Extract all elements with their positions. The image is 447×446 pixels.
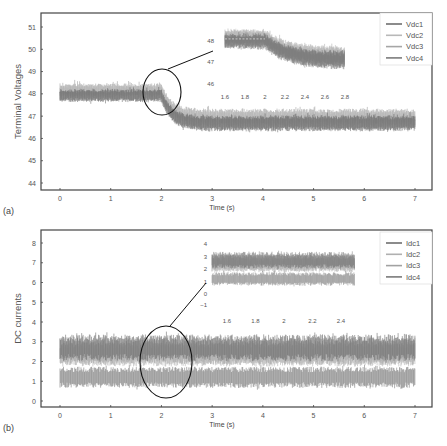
- figure: 012345674445464748495051Time (s)Terminal…: [0, 0, 447, 446]
- panel-a-y-tick-label: 51: [28, 24, 36, 31]
- legend-label: Vdc4: [406, 54, 423, 63]
- panel-a-leader-line: [168, 51, 213, 69]
- panel-b-panel-label: (b): [3, 423, 14, 433]
- legend-label: Idc2: [406, 250, 420, 259]
- panel-b-x-tick-label: 5: [312, 412, 316, 419]
- panel-a-x-tick-label: 4: [261, 195, 265, 202]
- panel-b-y-tick-label: 1: [32, 378, 36, 385]
- panel-b-x-tick-label: 0: [58, 412, 62, 419]
- inset-b-x-tick-label: 2.2: [308, 318, 317, 324]
- panel-a-x-tick-label: 1: [109, 195, 113, 202]
- panel-a-x-tick-label: 2: [159, 195, 163, 202]
- panel-a-x-tick-label: 0: [58, 195, 62, 202]
- panel-b-y-tick-label: 3: [32, 338, 36, 345]
- inset-a-x-tick-label: 2.2: [281, 94, 290, 100]
- inset-a-x-tick-label: 2.4: [301, 94, 310, 100]
- inset-a-y-tick-label: 48: [207, 38, 214, 44]
- panel-a-y-tick-label: 46: [28, 135, 36, 142]
- legend-label: Vdc3: [406, 42, 423, 51]
- panel-b-x-tick-label: 7: [413, 412, 417, 419]
- inset-b-y-tick-label: 0: [204, 291, 208, 297]
- panel-a-x-axis-label: Time (s): [209, 204, 234, 212]
- inset-a-x-tick-label: 2.6: [321, 94, 330, 100]
- panel-b-zoom-inset: −1012341.61.822.22.4: [200, 241, 354, 324]
- panel-b-y-tick-label: 5: [32, 299, 36, 306]
- inset-a-y-tick-label: 47: [207, 59, 214, 65]
- inset-b-x-tick-label: 1.8: [251, 318, 260, 324]
- panel-b-dc-currents: 01234567012345678Time (s)DC currents(b)−…: [3, 230, 432, 433]
- panel-a-y-tick-label: 49: [28, 68, 36, 75]
- panel-a-x-tick-label: 6: [362, 195, 366, 202]
- panel-a-plot-area: [60, 80, 415, 132]
- panel-a-y-tick-label: 48: [28, 90, 36, 97]
- panel-b-y-tick-label: 2: [32, 358, 36, 365]
- inset-a-x-tick-label: 1.8: [241, 94, 250, 100]
- legend-label: Idc3: [406, 261, 420, 270]
- inset-b-y-tick-label: 2: [204, 266, 208, 272]
- inset-b-x-tick-label: 2: [282, 318, 286, 324]
- panel-b-x-tick-label: 3: [210, 412, 214, 419]
- panel-b-x-tick-label: 1: [109, 412, 113, 419]
- panel-a-panel-label: (a): [3, 206, 14, 216]
- panel-b-x-tick-label: 4: [261, 412, 265, 419]
- panel-b-y-tick-label: 0: [32, 398, 36, 405]
- panel-a-x-tick-label: 3: [210, 195, 214, 202]
- legend-label: Vdc1: [406, 20, 423, 29]
- legend-label: Vdc2: [406, 31, 423, 40]
- inset-a-x-tick-label: 1.6: [221, 94, 230, 100]
- legend-label: Idc4: [406, 273, 420, 282]
- panel-a-y-tick-label: 45: [28, 157, 36, 164]
- inset-b-y-tick-label: 3: [204, 254, 208, 260]
- panel-b-y-tick-label: 4: [32, 319, 36, 326]
- inset-a-x-tick-label: 2.8: [341, 94, 350, 100]
- inset-b-y-tick-label: −1: [200, 302, 208, 308]
- inset-b-x-tick-label: 1.6: [223, 318, 232, 324]
- panel-b-y-tick-label: 8: [32, 240, 36, 247]
- panel-a-y-tick-label: 44: [28, 180, 36, 187]
- panel-a-x-tick-label: 5: [312, 195, 316, 202]
- panel-b-x-tick-label: 2: [159, 412, 163, 419]
- inset-b-x-tick-label: 2.4: [337, 318, 346, 324]
- series-idc4: [60, 365, 415, 390]
- inset-a-y-tick-label: 46: [207, 81, 214, 87]
- panel-a-y-tick-label: 50: [28, 46, 36, 53]
- legend-label: Idc1: [406, 239, 420, 248]
- panel-a-terminal-voltages: 012345674445464748495051Time (s)Terminal…: [3, 13, 432, 216]
- panel-b-plot-area: [60, 332, 415, 390]
- panel-b-y-tick-label: 7: [32, 259, 36, 266]
- panel-b-x-tick-label: 6: [362, 412, 366, 419]
- inset-b-y-tick-label: 4: [204, 241, 208, 247]
- panel-a-x-tick-label: 7: [413, 195, 417, 202]
- panel-a-legend: Vdc1Vdc2Vdc3Vdc4: [380, 13, 432, 65]
- panel-b-y-tick-label: 6: [32, 279, 36, 286]
- inset-a-x-tick-label: 2: [263, 94, 267, 100]
- panel-b-x-axis-label: Time (s): [209, 421, 234, 429]
- panel-b-y-axis-label: DC currents: [12, 293, 23, 344]
- panel-b-legend: Idc1Idc2Idc3Idc4: [380, 232, 432, 284]
- panel-a-zoom-inset: 4647481.61.822.22.42.62.8: [207, 29, 350, 101]
- panel-a-y-axis-label: Terminal Voltages: [12, 64, 23, 139]
- panel-a-y-tick-label: 47: [28, 113, 36, 120]
